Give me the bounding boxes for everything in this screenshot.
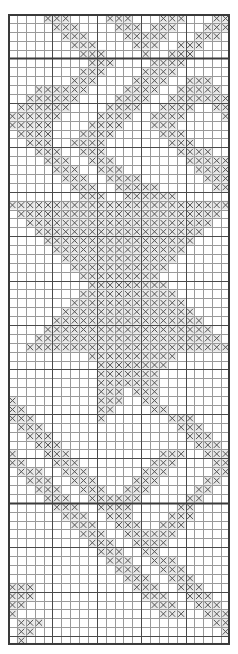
pattern-chart [8, 14, 230, 645]
pattern-grid-canvas [8, 14, 230, 645]
